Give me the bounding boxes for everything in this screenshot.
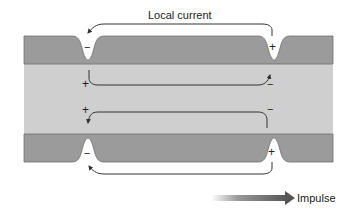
bottom-membrane bbox=[24, 134, 333, 162]
axoplasm-band bbox=[24, 64, 333, 134]
impulse-label: Impulse bbox=[297, 192, 336, 204]
charge-inner-top-right: − bbox=[267, 78, 273, 90]
local-current-diagram: Local current − + + − + − − + Impulse bbox=[0, 0, 350, 216]
charge-bottom-membrane-left: − bbox=[84, 147, 90, 159]
charge-top-membrane-right: + bbox=[269, 40, 276, 54]
top-membrane bbox=[24, 36, 333, 64]
charge-bottom-membrane-right: + bbox=[268, 145, 275, 159]
outer-bottom-current-arrow bbox=[89, 162, 272, 174]
outer-top-current-arrow bbox=[88, 24, 272, 36]
charge-inner-bottom-left: + bbox=[82, 103, 89, 117]
local-current-label: Local current bbox=[148, 9, 212, 21]
impulse-arrow-icon bbox=[211, 191, 295, 205]
charge-inner-bottom-right: − bbox=[267, 103, 273, 115]
charge-inner-top-left: + bbox=[82, 77, 89, 91]
charge-top-membrane-left: − bbox=[84, 41, 90, 53]
